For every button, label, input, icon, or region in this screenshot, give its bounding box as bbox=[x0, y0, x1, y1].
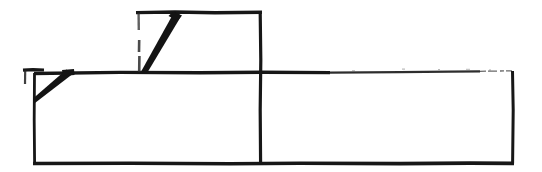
upper-diagonal-slash bbox=[140, 12, 182, 74]
main-rect-bottom-edge bbox=[33, 163, 514, 164]
main-rect-right-edge bbox=[513, 71, 514, 164]
diagram-canvas bbox=[0, 0, 542, 172]
upper-rect-top-edge bbox=[136, 12, 262, 13]
vertical-divider bbox=[260, 12, 261, 164]
hand-drawn-sketch bbox=[0, 0, 542, 172]
lower-diagonal-top-hook bbox=[62, 69, 75, 76]
main-rect-top-edge-right bbox=[330, 71, 480, 72]
main-rect-top-edge-far-right bbox=[480, 71, 513, 72]
main-rect-top-edge-left bbox=[34, 72, 330, 73]
left-top-stub bbox=[23, 70, 44, 71]
